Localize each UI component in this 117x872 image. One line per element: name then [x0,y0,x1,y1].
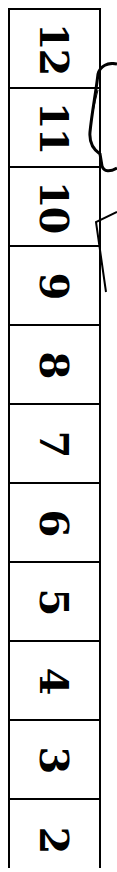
cell-label: 3 [31,747,78,773]
cell-7: 7 [10,405,99,484]
cell-8: 8 [10,326,99,405]
cell-label: 2 [31,827,78,853]
cell-label: 9 [31,273,78,299]
cell-label: 5 [31,589,78,615]
cell-label: 8 [31,352,78,378]
cell-4: 4 [10,642,99,721]
cell-label: 4 [31,668,78,694]
cell-label: 7 [31,431,78,457]
cell-3: 3 [10,721,99,800]
cell-5: 5 [10,563,99,642]
cell-label: 12 [31,23,78,75]
cell-label: 10 [31,181,78,233]
cell-2: 2 [10,800,99,872]
cell-6: 6 [10,484,99,563]
cell-label: 11 [31,102,78,154]
cartoon-outline-icon [86,62,117,302]
cell-label: 6 [31,510,78,536]
